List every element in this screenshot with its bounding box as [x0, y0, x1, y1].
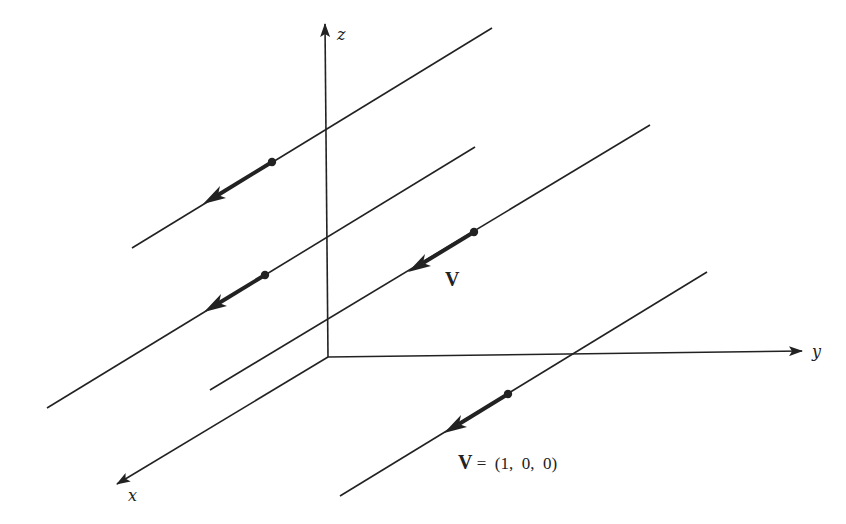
field-point — [268, 158, 276, 166]
field-point — [261, 271, 269, 279]
field-point — [504, 390, 512, 398]
z-axis-label: z — [336, 25, 346, 44]
vector-arrowhead-icon — [204, 294, 227, 312]
vector-equation: V = (1, 0, 0) — [458, 451, 557, 473]
field-point — [470, 228, 478, 236]
field-line — [47, 147, 475, 408]
y-axis — [328, 351, 802, 357]
vector-field-diagram: z y x — [0, 0, 846, 524]
equation-value: = (1, 0, 0) — [472, 454, 557, 473]
axes: z y x — [117, 24, 822, 505]
x-axis — [117, 357, 328, 484]
z-axis — [325, 24, 328, 357]
field-line — [132, 28, 492, 248]
vector-arrowhead-icon — [444, 415, 467, 433]
field-line — [210, 125, 650, 390]
equation-vector-symbol: V — [458, 451, 473, 473]
vector-arrow-shaft — [219, 275, 265, 303]
x-axis-label: x — [128, 486, 137, 505]
vector-label: V — [445, 268, 460, 290]
vector-arrow-shaft — [423, 232, 474, 263]
vector-arrowhead-icon — [408, 254, 431, 272]
y-axis-label: y — [811, 342, 822, 361]
vector-arrow-shaft — [459, 394, 508, 424]
vector-arrowhead-icon — [203, 186, 226, 204]
field-lines — [47, 28, 707, 496]
vector-arrow-shaft — [218, 162, 272, 195]
